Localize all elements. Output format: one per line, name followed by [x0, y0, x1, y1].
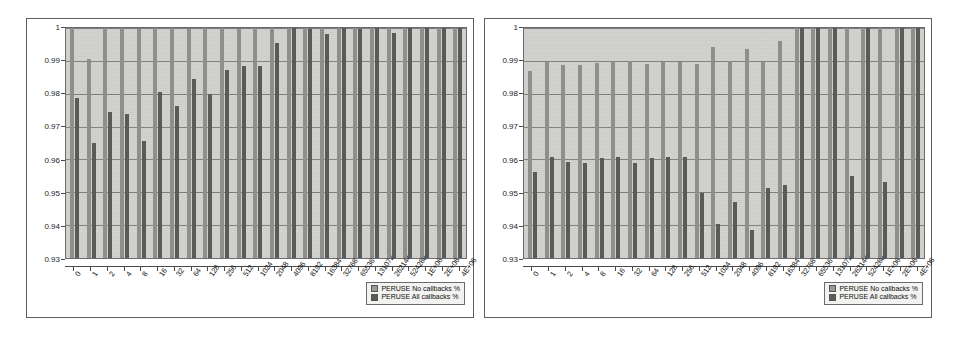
bar-category-group	[657, 28, 674, 258]
bar-category-group	[316, 28, 333, 258]
bar	[387, 28, 391, 258]
bar-category-group	[433, 28, 450, 258]
bar	[700, 193, 704, 258]
y-axis-tick-mark	[519, 93, 523, 94]
bar-category-group	[383, 28, 400, 258]
bar	[833, 28, 837, 258]
legend-left: PERUSE No callbacks % PERUSE All callbac…	[366, 282, 465, 306]
bar	[103, 28, 107, 258]
bar	[125, 114, 129, 258]
x-axis-tick: 32	[624, 267, 641, 317]
bar	[545, 62, 549, 258]
x-axis-tick: 256	[674, 267, 691, 317]
bar	[628, 61, 632, 258]
legend-swatch-icon-all-callbacks	[829, 294, 836, 301]
bar	[303, 28, 307, 258]
x-axis-tick: 32	[166, 267, 183, 317]
bar-category-group	[416, 28, 433, 258]
bar-category-group	[824, 28, 841, 258]
bar	[358, 29, 362, 258]
legend-row-all-callbacks: PERUSE All callbacks %	[829, 293, 918, 302]
bar	[783, 185, 787, 258]
bar	[845, 28, 849, 258]
bar	[795, 28, 799, 258]
x-axis-tick: 65536	[350, 267, 367, 317]
bar-category-group	[641, 28, 658, 258]
x-axis-tick-label: 4E+06	[459, 256, 478, 278]
x-axis-tick: 1	[540, 267, 557, 317]
y-axis-tick-mark	[61, 193, 65, 194]
bar	[242, 66, 246, 258]
x-axis-tick: 2048	[724, 267, 741, 317]
y-axis-tick-label: 0.97	[44, 122, 60, 131]
bar	[187, 29, 191, 258]
bar	[92, 143, 96, 258]
bar	[292, 28, 296, 258]
y-axis-tick-label: 0.94	[502, 221, 518, 230]
bar	[811, 28, 815, 258]
x-axis-tick: 1	[82, 267, 99, 317]
bar	[408, 28, 412, 258]
x-axis-tick: 128	[199, 267, 216, 317]
bar	[916, 28, 920, 258]
bar	[170, 28, 174, 258]
bar	[225, 70, 229, 258]
bar	[70, 28, 74, 258]
bar	[353, 28, 357, 258]
y-axis-tick-mark	[519, 126, 523, 127]
bar	[716, 224, 720, 259]
bar-category-group	[299, 28, 316, 258]
bar	[895, 28, 899, 258]
chart-left: 0.930.940.950.960.970.980.991 0124816326…	[26, 18, 474, 318]
bar-category-group	[99, 28, 116, 258]
bar-category-group	[541, 28, 558, 258]
bar	[578, 65, 582, 258]
bar-category-group	[624, 28, 641, 258]
bar	[633, 163, 637, 258]
bar-category-group	[283, 28, 300, 258]
y-axis-tick-mark	[519, 60, 523, 61]
bar	[270, 28, 274, 258]
x-axis-tick: 32768	[791, 267, 808, 317]
bar-category-group	[524, 28, 541, 258]
legend-swatch-icon-all-callbacks	[371, 294, 378, 301]
bar	[437, 28, 441, 258]
y-axis-tick-label: 1	[56, 23, 60, 32]
bar	[666, 157, 670, 258]
y-axis-tick-label: 0.94	[44, 221, 60, 230]
bar	[392, 33, 396, 258]
bar	[850, 176, 854, 258]
bar	[616, 157, 620, 258]
bar	[778, 41, 782, 258]
bar-category-group	[349, 28, 366, 258]
x-axis-tick: 2048	[266, 267, 283, 317]
y-axis-tick-label: 0.95	[44, 188, 60, 197]
y-axis-tick-mark	[61, 226, 65, 227]
bar-category-group	[674, 28, 691, 258]
bar	[175, 106, 179, 258]
bar-category-group	[741, 28, 758, 258]
x-axis-tick: 4096	[741, 267, 758, 317]
bar-category-group	[233, 28, 250, 258]
y-axis-tick-mark	[519, 160, 523, 161]
bar	[733, 202, 737, 258]
chart-right: 0.930.940.950.960.970.980.991 0124816326…	[484, 18, 932, 318]
y-axis-tick-label: 0.93	[502, 255, 518, 264]
bar	[342, 28, 346, 258]
bar	[220, 28, 224, 258]
bar	[645, 64, 649, 259]
x-axis-tick: 8	[590, 267, 607, 317]
bar-category-group	[574, 28, 591, 258]
x-axis-tick: 256	[216, 267, 233, 317]
bar	[745, 49, 749, 258]
bar	[142, 141, 146, 258]
bar-category-group	[907, 28, 924, 258]
bar	[425, 28, 429, 258]
bar	[158, 92, 162, 258]
bar	[325, 34, 329, 258]
bar	[370, 28, 374, 258]
bar	[153, 28, 157, 258]
bar-category-group	[166, 28, 183, 258]
x-axis-tick: 65536	[808, 267, 825, 317]
x-axis-tick: 1024	[249, 267, 266, 317]
